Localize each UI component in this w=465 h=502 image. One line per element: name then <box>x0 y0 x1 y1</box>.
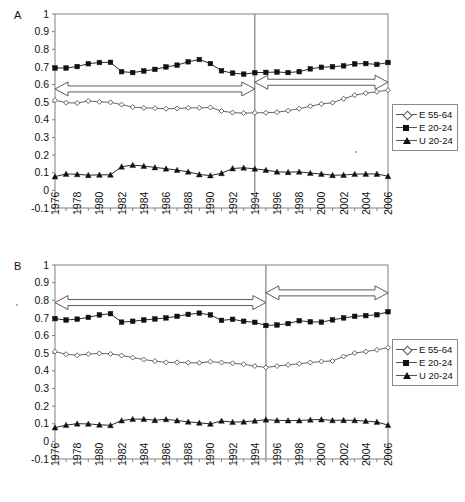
series-marker-filled-square <box>330 318 335 323</box>
y-tick-label: -0.1 <box>31 202 49 214</box>
series-marker-filled-square <box>86 61 91 66</box>
series-marker-filled-square <box>64 66 69 71</box>
x-tick-label: 1986 <box>160 191 172 215</box>
series-marker-filled-square <box>319 320 324 325</box>
y-tick-label: 0.8 <box>34 294 49 306</box>
legend-entry[interactable]: E 20-24 <box>396 356 453 369</box>
series-marker-filled-square <box>153 317 158 322</box>
x-tick-label: 1980 <box>93 442 105 466</box>
legend-entry-label: E 55-64 <box>417 109 452 120</box>
x-tick-label: 1978 <box>71 442 83 466</box>
series-marker-filled-square <box>375 62 380 67</box>
legend-marker-filled-square-icon <box>396 356 417 369</box>
legend-entry[interactable]: U 20-24 <box>396 369 453 382</box>
series-marker-filled-square <box>364 313 369 318</box>
y-tick-label: 0.1 <box>34 166 49 178</box>
legend-entry[interactable]: U 20-24 <box>396 134 453 147</box>
x-tick-label: 1998 <box>293 191 305 215</box>
chart-panel-a: A -0.100.10.20.30.40.50.60.70.80.9119761… <box>0 0 465 251</box>
legend-marker-open-diamond-icon <box>396 343 417 356</box>
series-marker-filled-square <box>386 309 391 314</box>
legend-marker-filled-triangle-icon <box>396 134 417 147</box>
series-marker-filled-square <box>375 312 380 317</box>
series-marker-filled-square <box>241 72 246 77</box>
series-marker-filled-square <box>308 319 313 324</box>
y-tick-label: 0.6 <box>34 329 49 341</box>
x-tick-label: 1984 <box>138 442 150 466</box>
series-marker-filled-square <box>275 323 280 328</box>
y-tick-label: 0.6 <box>34 78 49 90</box>
legend-entry-label: E 20-24 <box>417 122 452 133</box>
x-tick-label: 1976 <box>49 442 61 466</box>
series-marker-filled-square <box>175 314 180 319</box>
x-tick-label: 1996 <box>271 191 283 215</box>
scan-speck <box>355 151 357 153</box>
series-marker-filled-square <box>264 70 269 75</box>
series-marker-filled-square <box>97 60 102 65</box>
y-tick-label: 0.2 <box>34 400 49 412</box>
series-marker-filled-square <box>142 69 147 74</box>
series-marker-filled-square <box>297 318 302 323</box>
series-marker-filled-square <box>164 65 169 70</box>
series-marker-filled-square <box>175 63 180 68</box>
y-tick-label: 0.3 <box>34 382 49 394</box>
series-marker-filled-square <box>352 62 357 67</box>
x-tick-label: 2006 <box>382 442 394 466</box>
series-marker-filled-square <box>164 316 169 321</box>
series-marker-filled-square <box>319 65 324 70</box>
legend-entry-label: U 20-24 <box>417 370 453 381</box>
y-tick-label: 0.4 <box>34 113 49 125</box>
x-tick-label: 1992 <box>227 191 239 215</box>
series-marker-filled-square <box>197 57 202 62</box>
y-tick-label: -0.1 <box>31 453 49 465</box>
legend-entry[interactable]: E 20-24 <box>396 121 453 134</box>
series-marker-filled-square <box>97 313 102 318</box>
series-marker-filled-square <box>230 71 235 76</box>
series-marker-filled-square <box>386 60 391 65</box>
y-tick-label: 0.4 <box>34 364 49 376</box>
legend-entry-label: E 20-24 <box>417 357 452 368</box>
series-marker-filled-square <box>352 314 357 319</box>
x-tick-label: 1998 <box>293 442 305 466</box>
series-marker-filled-square <box>241 319 246 324</box>
legend-entry[interactable]: E 55-64 <box>396 108 453 121</box>
series-marker-filled-square <box>208 313 213 318</box>
series-marker-filled-square <box>219 68 224 73</box>
panel-b-legend: E 55-64E 20-24U 20-24 <box>392 339 458 386</box>
series-marker-filled-square <box>142 318 147 323</box>
series-marker-filled-square <box>130 70 135 75</box>
x-tick-label: 1992 <box>227 442 239 466</box>
series-marker-filled-square <box>53 66 58 71</box>
series-marker-filled-square <box>130 319 135 324</box>
legend-entry[interactable]: E 55-64 <box>396 343 453 356</box>
x-tick-label: 1984 <box>138 191 150 215</box>
series-marker-filled-square <box>341 316 346 321</box>
series-marker-filled-square <box>153 67 158 72</box>
x-tick-label: 1994 <box>249 442 261 466</box>
y-tick-label: 0.7 <box>34 61 49 73</box>
y-tick-label: 0.9 <box>34 25 49 37</box>
series-marker-filled-square <box>253 320 258 325</box>
series-marker-filled-square <box>264 323 269 328</box>
series-marker-filled-square <box>297 69 302 74</box>
x-tick-label: 1990 <box>204 442 216 466</box>
x-tick-label: 2006 <box>382 191 394 215</box>
x-tick-label: 1976 <box>49 191 61 215</box>
chart-panel-b: B -0.100.10.20.30.40.50.60.70.80.9119761… <box>0 251 465 502</box>
y-tick-label: 0.7 <box>34 312 49 324</box>
series-marker-filled-square <box>286 70 291 75</box>
series-marker-filled-square <box>186 59 191 64</box>
x-tick-label: 2004 <box>360 191 372 215</box>
x-tick-label: 1982 <box>116 191 128 215</box>
x-tick-label: 2002 <box>338 442 350 466</box>
scan-speck <box>16 304 18 306</box>
x-tick-label: 1988 <box>182 442 194 466</box>
series-marker-filled-square <box>253 70 258 75</box>
y-tick-label: 1 <box>43 8 49 20</box>
x-tick-label: 1978 <box>71 191 83 215</box>
series-marker-filled-square <box>119 320 124 325</box>
series-marker-filled-square <box>119 69 124 74</box>
legend-marker-filled-square-icon <box>396 121 417 134</box>
y-tick-label: 0.1 <box>34 417 49 429</box>
series-marker-filled-square <box>286 321 291 326</box>
